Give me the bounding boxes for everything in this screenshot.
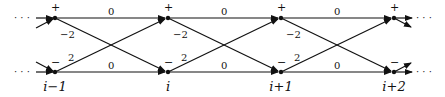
state-sign-minus: − (277, 56, 286, 69)
branch-label-down: −2 (173, 29, 188, 40)
state-sign-minus: − (51, 56, 60, 69)
stage-label: i+1 (269, 79, 292, 94)
branch-label-down: −2 (286, 29, 301, 40)
branch-label-up: 2 (181, 52, 187, 63)
state-sign-plus: + (51, 1, 60, 14)
branch-label-bottom: 0 (334, 60, 340, 71)
state-sign-plus: + (164, 1, 173, 14)
leading-ellipsis-bottom: · · · (14, 66, 30, 77)
stage-label: i−1 (43, 79, 66, 94)
branch-label-up: 2 (68, 52, 74, 63)
state-sign-plus: + (390, 1, 399, 14)
leading-ellipsis-top: · · · (14, 12, 30, 23)
state-sign-minus: − (390, 56, 399, 69)
branch-label-down: −2 (60, 29, 75, 40)
branch-label-top: 0 (221, 6, 227, 17)
stage-label: i+2 (382, 79, 405, 94)
trailing-ellipsis-bottom: · · · (416, 66, 432, 77)
state-sign-minus: − (164, 56, 173, 69)
trailing-ellipsis-top: · · · (416, 12, 432, 23)
stage-label: i (166, 79, 170, 94)
branch-label-up: 2 (294, 52, 300, 63)
trellis-diagram: · · · · · · · · · · · (0, 0, 445, 97)
branch-label-top: 0 (108, 6, 114, 17)
branch-label-top: 0 (334, 6, 340, 17)
state-sign-plus: + (277, 1, 286, 14)
branch-label-bottom: 0 (108, 60, 114, 71)
branch-label-bottom: 0 (221, 60, 227, 71)
